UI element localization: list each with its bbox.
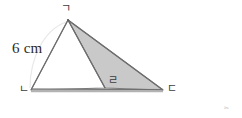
base-line (31, 89, 163, 90)
measurement-label-6cm: 6 cm (12, 41, 42, 56)
vertex-label-r: ㄹ (108, 75, 118, 86)
vertex-label-g: ㄱ (61, 3, 71, 14)
vertex-label-d: ㄷ (167, 83, 177, 94)
geometry-figure: ㄱ ㄴ ㄹ ㄷ 6 cm ✂ (0, 0, 242, 118)
vertex-label-n: ㄴ (19, 84, 29, 95)
apex-point-marker (67, 19, 69, 21)
page-corner-mark: ✂ (224, 104, 229, 111)
figure-canvas (0, 0, 242, 118)
